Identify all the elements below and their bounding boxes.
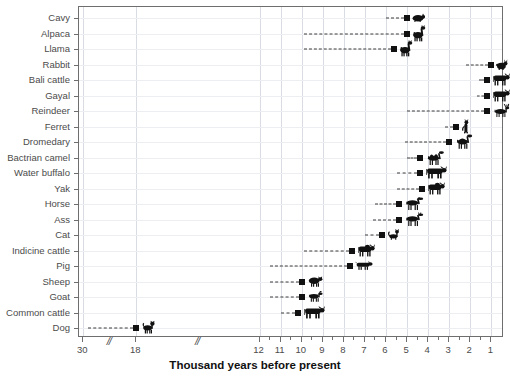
y-gridline	[79, 34, 502, 35]
leader-line	[270, 281, 299, 282]
pig-silhouette	[355, 261, 373, 270]
x-axis-minor-tick	[459, 337, 460, 340]
data-point-marker[interactable]	[484, 108, 490, 114]
y-gridline	[79, 204, 502, 205]
x-axis-tick-label: 1	[488, 344, 493, 355]
common-cattle-silhouette	[303, 306, 325, 319]
y-axis-label-bactrian-camel: Bactrian camel	[0, 151, 70, 162]
sheep-silhouette	[307, 276, 323, 287]
data-point-marker[interactable]	[404, 31, 410, 37]
data-point-marker[interactable]	[349, 248, 355, 254]
y-gridline	[79, 65, 502, 66]
x-gridline	[449, 7, 450, 336]
y-axis-label-cat: Cat	[0, 229, 70, 240]
data-point-marker[interactable]	[299, 279, 305, 285]
y-gridline	[79, 49, 502, 50]
y-axis-label-goat: Goat	[0, 291, 70, 302]
x-axis-minor-tick	[480, 337, 481, 340]
y-axis-tick	[74, 80, 79, 81]
x-axis-tick-label: 4	[424, 344, 429, 355]
y-axis-label-yak: Yak	[0, 182, 70, 193]
x-gridline	[365, 7, 366, 336]
data-point-marker[interactable]	[488, 62, 494, 68]
data-point-marker[interactable]	[417, 170, 423, 176]
x-gridline	[470, 7, 471, 336]
data-point-marker[interactable]	[417, 155, 423, 161]
data-point-marker[interactable]	[295, 310, 301, 316]
x-axis-tick	[385, 337, 386, 342]
yak-silhouette	[427, 182, 445, 195]
x-axis-tick-label: 18	[130, 344, 141, 355]
x-axis-tick-label: 12	[253, 344, 264, 355]
leader-line	[304, 250, 349, 251]
y-axis-tick	[74, 65, 79, 66]
data-point-marker[interactable]	[484, 93, 490, 99]
x-gridline	[260, 7, 261, 336]
y-axis-tick	[74, 142, 79, 143]
indicine-cattle-silhouette	[357, 244, 375, 257]
y-axis-tick	[74, 34, 79, 35]
leader-line	[375, 204, 395, 205]
axis-break-mark: //	[107, 335, 111, 347]
y-axis-label-alpaca: Alpaca	[0, 27, 70, 38]
x-axis-tick	[135, 337, 136, 342]
y-gridline	[79, 251, 502, 252]
x-axis-tick-label: 10	[295, 344, 306, 355]
data-point-marker[interactable]	[484, 77, 490, 83]
x-axis-tick-label: 7	[361, 344, 366, 355]
data-point-marker[interactable]	[404, 15, 410, 21]
data-point-marker[interactable]	[299, 294, 305, 300]
goat-silhouette	[307, 291, 323, 302]
x-axis-title: Thousand years before present	[0, 359, 510, 371]
data-point-marker[interactable]	[347, 263, 353, 269]
x-axis-minor-tick	[438, 337, 439, 340]
x-axis-tick	[469, 337, 470, 342]
y-axis-tick	[74, 266, 79, 267]
leader-line	[477, 95, 485, 96]
x-axis-minor-tick	[311, 337, 312, 340]
data-point-marker[interactable]	[453, 124, 459, 130]
x-axis-tick	[82, 337, 83, 342]
data-point-marker[interactable]	[419, 186, 425, 192]
leader-line	[365, 235, 379, 236]
data-point-marker[interactable]	[446, 139, 452, 145]
data-point-marker[interactable]	[396, 201, 402, 207]
leader-line	[270, 266, 347, 267]
y-axis-label-sheep: Sheep	[0, 275, 70, 286]
x-axis-tick	[322, 337, 323, 342]
x-axis-tick	[448, 337, 449, 342]
plot-area	[78, 6, 503, 337]
data-point-marker[interactable]	[133, 325, 139, 331]
leader-line	[304, 49, 392, 50]
x-gridline	[302, 7, 303, 336]
y-axis-label-indicine-cattle: Indicine cattle	[0, 244, 70, 255]
leader-line	[407, 157, 417, 158]
x-axis-minor-tick	[290, 337, 291, 340]
y-axis-label-ferret: Ferret	[0, 120, 70, 131]
y-gridline	[79, 220, 502, 221]
y-axis-label-horse: Horse	[0, 198, 70, 209]
y-gridline	[79, 96, 502, 97]
leader-line	[407, 111, 484, 112]
x-axis-tick	[259, 337, 260, 342]
x-gridline	[491, 7, 492, 336]
cavy-silhouette	[412, 13, 425, 22]
data-point-marker[interactable]	[379, 232, 385, 238]
y-axis-tick	[74, 282, 79, 283]
leader-line	[373, 219, 395, 220]
data-point-marker[interactable]	[391, 46, 397, 52]
y-axis-tick	[74, 49, 79, 50]
x-gridline	[136, 7, 137, 336]
x-axis-tick	[406, 337, 407, 342]
alpaca-silhouette	[412, 24, 426, 41]
x-gridline	[386, 7, 387, 336]
data-point-marker[interactable]	[396, 217, 402, 223]
x-axis-minor-tick	[417, 337, 418, 340]
cat-silhouette	[387, 229, 400, 240]
y-axis-tick	[74, 204, 79, 205]
x-axis-tick-label: 11	[275, 344, 285, 355]
x-axis-tick-label: 3	[446, 344, 451, 355]
y-axis-tick	[74, 173, 79, 174]
leader-line	[466, 64, 488, 65]
x-gridline	[323, 7, 324, 336]
